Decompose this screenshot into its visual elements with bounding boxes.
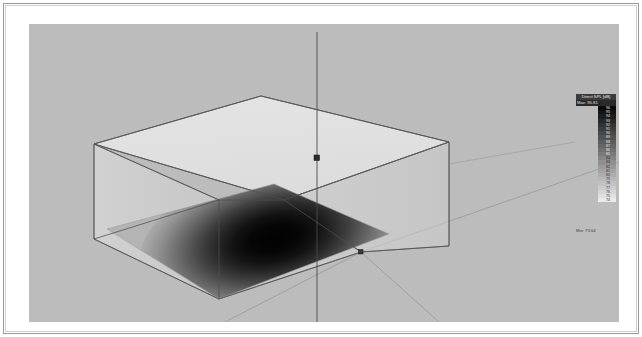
3d-scene[interactable] — [29, 24, 619, 322]
spl-colorbar-legend[interactable]: Direct SPL [dB] Max: 95.81 9695949392919… — [576, 94, 616, 234]
legend-tick-value: 74 — [605, 198, 616, 202]
legend-leader-line — [449, 142, 575, 164]
source-point-marker[interactable] — [314, 155, 320, 161]
legend-scale[interactable]: 9695949392919089888786858483828180797877… — [598, 106, 616, 202]
corner-point-marker[interactable] — [359, 250, 364, 255]
legend-min-value: Min: 73.64 — [576, 228, 616, 234]
legend-tick-row[interactable]: 74 — [598, 198, 616, 202]
window-frame: Direct SPL [dB] Max: 95.81 9695949392919… — [3, 3, 639, 334]
legend-swatch — [598, 198, 605, 202]
3d-viewport[interactable]: Direct SPL [dB] Max: 95.81 9695949392919… — [29, 24, 619, 322]
application-root: Direct SPL [dB] Max: 95.81 9695949392919… — [0, 0, 642, 337]
